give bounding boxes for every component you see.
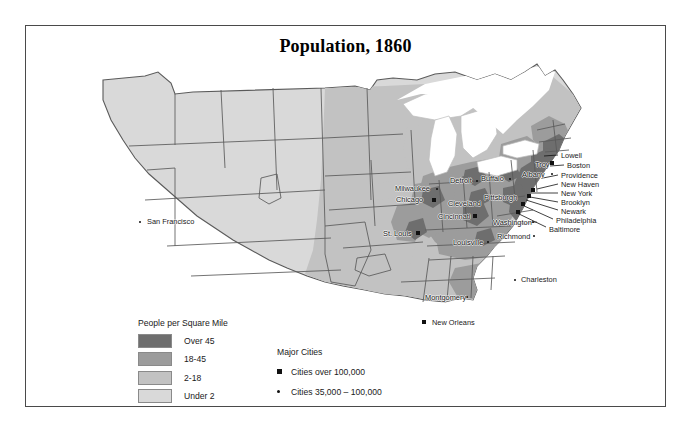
brooklyn-leader-line	[530, 197, 558, 202]
new-york-label: New York	[561, 190, 592, 197]
pittsburgh-label: Pittsburgh	[484, 194, 517, 201]
legend-cities-title: Major Cities	[277, 347, 382, 357]
newark-label: Newark	[561, 208, 586, 215]
swatch-under2	[138, 389, 172, 403]
brooklyn-label: Brooklyn	[561, 199, 590, 206]
baltimore-label: Baltimore	[549, 226, 580, 233]
milwaukee-label: Milwaukee	[395, 185, 430, 192]
cleveland-label: Cleveland	[448, 200, 481, 207]
cincinnati-label: Cincinnati	[438, 213, 470, 220]
map-figure: Population, 1860	[0, 0, 691, 434]
swatch-2to18	[138, 371, 172, 385]
new-haven-label: New Haven	[561, 181, 599, 188]
st-louis-marker	[416, 231, 421, 236]
legend-row-over45: Over 45	[138, 333, 228, 348]
charleston-label: Charleston	[521, 276, 557, 283]
washington-label: Washington	[493, 219, 532, 226]
swatch-label-over45: Over 45	[184, 336, 215, 346]
montgomery-label: Montgomery	[425, 294, 466, 301]
philadelphia-marker-marker	[521, 202, 526, 207]
new-york-marker-marker	[531, 188, 536, 193]
legend-cities: Major Cities Cities over 100,000 Cities …	[277, 347, 382, 405]
legend-row-large-cities: Cities over 100,000	[277, 365, 382, 378]
legend-label-medium-cities: Cities 35,000 – 100,000	[291, 387, 382, 397]
dot-marker-icon	[277, 390, 291, 393]
legend-row-18to45: 18-45	[138, 352, 228, 367]
legend-row-under2: Under 2	[138, 389, 228, 404]
swatch-label-2to18: 2-18	[184, 373, 201, 383]
swatch-label-18to45: 18-45	[184, 354, 206, 364]
legend-label-large-cities: Cities over 100,000	[291, 367, 365, 377]
new-orleans-marker	[422, 320, 427, 325]
legend-density-title: People per Square Mile	[138, 318, 228, 328]
richmond-label: Richmond	[497, 233, 530, 240]
cincinnati-marker	[473, 214, 478, 219]
st-louis-label: St. Louis	[383, 230, 412, 237]
troy-label: Troy	[535, 161, 550, 168]
buffalo-label: Buffalo	[481, 175, 504, 182]
san-francisco-label: San Francisco	[147, 218, 194, 225]
louisville-label: Louisville	[453, 239, 483, 246]
albany-label: Albany	[522, 171, 545, 178]
detroit-label: Detroit	[450, 177, 472, 184]
swatch-18to45	[138, 352, 172, 366]
lowell-label: Lowell	[561, 152, 582, 159]
legend-row-2to18: 2-18	[138, 370, 228, 385]
providence-leader-line	[543, 175, 558, 178]
philadelphia-label: Philadelphia	[556, 217, 596, 224]
new-haven-leader-line	[537, 184, 558, 189]
florida-lowdensity	[487, 280, 519, 305]
legend-row-medium-cities: Cities 35,000 – 100,000	[277, 385, 382, 398]
swatch-label-under2: Under 2	[184, 391, 215, 401]
boston-marker-marker	[550, 161, 555, 166]
square-marker-icon	[277, 369, 291, 374]
chicago-label: Chicago	[396, 196, 423, 203]
baltimore-marker-marker	[516, 210, 521, 215]
boston-label: Boston	[567, 162, 590, 169]
new-orleans-label: New Orleans	[432, 319, 475, 326]
legend-density: People per Square Mile Over 45 18-45 2-1…	[138, 318, 228, 407]
providence-label: Providence	[561, 172, 598, 179]
brooklyn-marker-marker	[527, 194, 532, 199]
swatch-over45	[138, 334, 172, 348]
chicago-marker	[432, 198, 437, 203]
